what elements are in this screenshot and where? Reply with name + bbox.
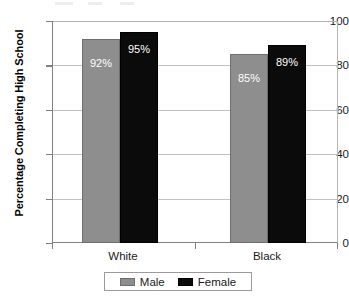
- scan-artifact: [55, 2, 73, 5]
- bar-label-black-female: 89%: [269, 56, 305, 68]
- bar-label-white-female: 95%: [121, 43, 157, 55]
- chart-legend: Male Female: [104, 272, 252, 291]
- plot-area: 92% 95% 85% 89%: [52, 21, 338, 243]
- legend-label-male: Male: [140, 276, 165, 288]
- bar-white-male: 92%: [82, 39, 120, 243]
- bar-chart: Percentage Completing High School 100 80…: [0, 0, 349, 301]
- legend-entry-male: Male: [120, 276, 165, 288]
- legend-entry-female: Female: [178, 276, 236, 288]
- x-tick-mark-center: [195, 243, 196, 249]
- legend-label-female: Female: [198, 276, 236, 288]
- y-axis-title: Percentage Completing High School: [13, 8, 25, 238]
- bar-white-female: 95%: [120, 32, 158, 243]
- legend-swatch-male-icon: [120, 278, 135, 286]
- gridline-100: [53, 21, 337, 22]
- scan-artifact: [88, 2, 102, 5]
- x-tick-mark-left: [52, 243, 53, 249]
- x-tick-mark-right: [337, 243, 338, 249]
- bar-label-white-male: 92%: [83, 57, 119, 69]
- bar-label-black-male: 85%: [231, 72, 267, 84]
- x-category-label-white: White: [78, 250, 168, 262]
- scan-artifact: [120, 2, 134, 5]
- bar-black-male: 85%: [230, 54, 268, 243]
- x-category-label-black: Black: [222, 250, 312, 262]
- bar-black-female: 89%: [268, 45, 306, 243]
- legend-swatch-female-icon: [178, 278, 193, 286]
